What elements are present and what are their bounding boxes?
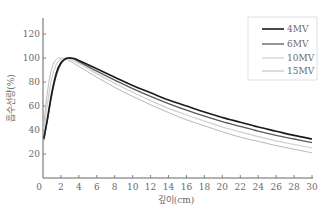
x-tick-label: 6 [94, 182, 100, 192]
x-tick-label: 12 [145, 182, 156, 192]
x-tick-label: 10 [127, 182, 139, 192]
x-tick-label: 14 [163, 182, 175, 192]
x-tick-label: 20 [217, 182, 229, 192]
y-tick-label: 80 [29, 77, 41, 87]
x-tick-label: 8 [112, 182, 118, 192]
depth-dose-chart: 20406080100120 0246810121416182022242628… [0, 0, 329, 218]
x-tick-label: 24 [252, 182, 264, 192]
x-tick-label: 18 [199, 182, 211, 192]
x-tick-label: 0 [36, 182, 42, 192]
x-tick-label: 28 [288, 182, 300, 192]
legend-label: 10MV [287, 53, 315, 63]
x-tick-label: 4 [76, 182, 82, 192]
y-axis-label: 흡수선량(%) [5, 74, 16, 122]
y-tick-label: 60 [29, 101, 41, 111]
x-tick-label: 16 [181, 182, 193, 192]
legend-label: 6MV [287, 39, 309, 49]
y-tick-label: 20 [29, 149, 41, 159]
x-tick-label: 22 [235, 182, 246, 192]
x-tick-label: 30 [306, 182, 318, 192]
x-tick-label: 26 [270, 182, 282, 192]
x-axis-label: 깊이(cm) [158, 194, 195, 205]
x-tick-label: 2 [58, 182, 64, 192]
legend-label: 4MV [287, 24, 309, 34]
legend-label: 15MV [287, 66, 315, 76]
y-tick-label: 100 [23, 53, 40, 63]
y-tick-label: 120 [23, 29, 40, 39]
legend: 4MV 6MV 10MV 15MV [248, 17, 317, 80]
y-tick-label: 40 [29, 125, 41, 135]
